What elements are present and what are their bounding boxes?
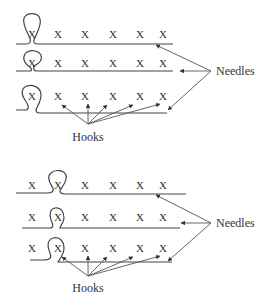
needles-label: Needles — [216, 216, 255, 230]
hook-arrow — [62, 105, 88, 124]
stitch-mark: X — [109, 179, 117, 191]
hooks-pointer-group: Hooks — [62, 104, 160, 144]
stitch-mark: X — [159, 211, 167, 223]
panel-2: X X X X X X X X X X X X X X X X X X — [16, 171, 255, 295]
stitch-mark: X — [159, 57, 167, 69]
stitch-mark: X — [54, 211, 62, 223]
stitch-mark: X — [81, 28, 89, 40]
stitch-mark: X — [81, 242, 89, 254]
stitch-mark: X — [109, 28, 117, 40]
stitch-mark: X — [81, 211, 89, 223]
panel-2-row-1: X X X X X X — [16, 171, 186, 194]
hook-arrow — [62, 257, 88, 276]
stitch-mark: X — [136, 28, 144, 40]
panel-1-row-2: X X X X X X — [16, 51, 173, 71]
stitch-mark: X — [54, 57, 62, 69]
stitch-mark: X — [136, 211, 144, 223]
stitch-mark: X — [81, 57, 89, 69]
stitch-mark: X — [81, 90, 89, 102]
stitch-mark: X — [109, 57, 117, 69]
yarn-loop — [22, 208, 180, 228]
yarn-loop — [16, 85, 167, 113]
needles-pointer-group: Needles — [156, 45, 255, 110]
stitch-mark: X — [159, 179, 167, 191]
hook-arrow — [88, 105, 133, 124]
hooks-label: Hooks — [72, 130, 104, 144]
hook-arrow — [88, 256, 160, 276]
yarn-loop — [16, 14, 173, 44]
panel-2-row-2: X X X X X X — [22, 208, 180, 228]
stitch-mark: X — [28, 211, 36, 223]
stitch-mark: X — [109, 90, 117, 102]
needle-arrow — [168, 223, 211, 261]
stitch-mark: X — [136, 242, 144, 254]
hook-arrow — [88, 104, 160, 124]
stitch-mark: X — [159, 242, 167, 254]
panel-1-row-1: X X X X X X — [16, 14, 173, 44]
stitch-mark: X — [28, 179, 36, 191]
needles-label: Needles — [216, 64, 255, 78]
stitch-mark: X — [54, 90, 62, 102]
hooks-label: Hooks — [72, 281, 104, 295]
stitch-mark: X — [54, 28, 62, 40]
stitch-mark: X — [54, 242, 62, 254]
panel-1: X X X X X X X X X X X X X X X X X X — [16, 14, 255, 144]
stitch-mark: X — [81, 179, 89, 191]
yarn-loop — [16, 51, 173, 71]
stitch-mark: X — [28, 242, 36, 254]
stitch-mark: X — [109, 242, 117, 254]
stitch-mark: X — [109, 211, 117, 223]
stitch-mark: X — [28, 90, 36, 102]
needle-arrow — [168, 71, 211, 110]
stitch-mark: X — [159, 28, 167, 40]
hook-arrow — [88, 257, 133, 276]
knitting-needles-hooks-diagram: X X X X X X X X X X X X X X X X X X — [0, 0, 268, 305]
stitch-mark: X — [136, 90, 144, 102]
panel-1-row-3: X X X X X X — [16, 85, 167, 113]
stitch-mark: X — [136, 179, 144, 191]
stitch-mark: X — [159, 90, 167, 102]
stitch-mark: X — [136, 57, 144, 69]
